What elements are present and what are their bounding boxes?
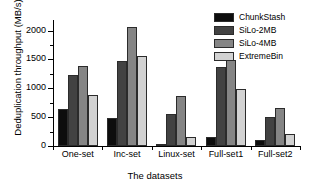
bar	[285, 134, 295, 146]
x-category-label: One-set	[53, 149, 102, 159]
bar	[275, 108, 285, 146]
y-tick-label-0: 0	[14, 140, 46, 150]
chart-legend: ChunkStashSiLo-2MBSiLo-4MBExtremeBin	[214, 11, 285, 63]
bar	[58, 109, 68, 146]
bar	[88, 95, 98, 146]
bar	[117, 61, 127, 146]
legend-swatch-icon	[214, 52, 234, 61]
legend-swatch-icon	[214, 13, 234, 22]
bar	[255, 140, 265, 146]
bar	[166, 114, 176, 146]
y-tick-label-1000: 1000	[14, 82, 46, 92]
bar	[265, 117, 275, 146]
bar-group	[53, 22, 102, 146]
y-tick-label-500: 500	[14, 111, 46, 121]
legend-item-chunkstash: ChunkStash	[214, 11, 285, 23]
bar	[156, 144, 166, 146]
x-category-label: Inc-set	[102, 149, 151, 159]
bar	[176, 96, 186, 146]
legend-label: ChunkStash	[239, 12, 285, 22]
legend-label: SiLo-2MB	[239, 25, 276, 35]
bar	[78, 66, 88, 146]
legend-item-extremebin: ExtremeBin	[214, 50, 285, 62]
legend-item-silo-4mb: SiLo-4MB	[214, 37, 285, 49]
bar	[236, 89, 246, 146]
y-tick-label-1500: 1500	[14, 53, 46, 63]
legend-item-silo-2mb: SiLo-2MB	[214, 24, 285, 36]
legend-swatch-icon	[214, 39, 234, 48]
x-axis-title: The datasets	[0, 170, 310, 181]
bar	[107, 118, 117, 146]
bar	[137, 56, 147, 146]
bar	[127, 27, 137, 146]
x-category-label: Linux-set	[152, 149, 201, 159]
bar	[186, 137, 196, 146]
bar-group	[152, 22, 201, 146]
bar	[226, 60, 236, 146]
y-tick-label-2000: 2000	[14, 25, 46, 35]
x-category-label: Full-set1	[201, 149, 250, 159]
x-category-label: Full-set2	[251, 149, 300, 159]
x-tick	[300, 146, 301, 150]
bar	[206, 137, 216, 146]
bar	[216, 67, 226, 146]
bar-chart-figure: Deduplication throughput (MB/s) 05001000…	[0, 0, 310, 189]
bar	[68, 75, 78, 146]
legend-label: ExtremeBin	[239, 51, 283, 61]
legend-swatch-icon	[214, 26, 234, 35]
legend-label: SiLo-4MB	[239, 38, 276, 48]
x-axis-line	[53, 146, 301, 147]
bar-group	[102, 22, 151, 146]
